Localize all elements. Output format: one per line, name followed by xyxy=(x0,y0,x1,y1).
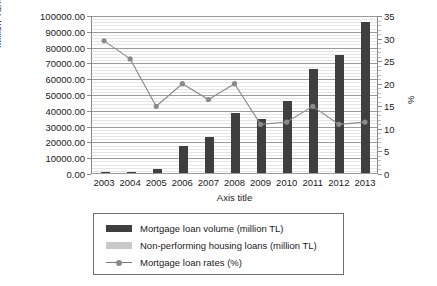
y2-tick-mark xyxy=(378,174,382,175)
legend-item-mortgage-loan-volume: Mortgage loan volume (million TL) xyxy=(106,220,343,237)
y-axis-left-title: Million Turkish Lira xyxy=(0,0,3,48)
y2-minor-tick-mark xyxy=(378,156,381,157)
y-tick-label: 30000.00 xyxy=(45,121,85,132)
y2-tick-mark xyxy=(378,61,382,62)
x-tick-label-2011: 2011 xyxy=(303,177,323,188)
y2-minor-tick-mark xyxy=(378,30,381,31)
y2-minor-tick-mark xyxy=(378,21,381,22)
y-tick-mark xyxy=(87,16,91,17)
mortgage-loan-rates-line-series xyxy=(91,16,378,174)
y2-tick-label: 35 xyxy=(384,11,395,22)
y2-tick-label: 20 xyxy=(384,78,395,89)
y2-minor-tick-mark xyxy=(378,165,381,166)
data-point-2003 xyxy=(101,38,106,43)
x-tick-label-2005: 2005 xyxy=(146,177,167,188)
y2-tick-label: 15 xyxy=(384,101,395,112)
data-point-2005 xyxy=(154,104,159,109)
y2-tick-mark xyxy=(378,84,382,85)
legend-label: Mortgage loan volume (million TL) xyxy=(140,223,283,234)
data-point-2013 xyxy=(362,119,367,124)
x-tick-label-2012: 2012 xyxy=(328,177,349,188)
y2-tick-label: 30 xyxy=(384,33,395,44)
y-tick-label: 60000.00 xyxy=(45,74,85,85)
y-tick-label: 80000.00 xyxy=(45,42,85,53)
y2-minor-tick-mark xyxy=(378,93,381,94)
y2-tick-mark xyxy=(378,151,382,152)
chart-container: Million Turkish Lira 0.0010000.0020000.0… xyxy=(0,0,437,286)
y2-tick-mark xyxy=(378,39,382,40)
data-point-2004 xyxy=(128,56,133,61)
y-tick-label: 0.00 xyxy=(67,169,86,180)
x-axis-ticks: 2003200420052006200720082009201020112012… xyxy=(91,177,378,191)
y2-minor-tick-mark xyxy=(378,43,381,44)
y2-minor-tick-mark xyxy=(378,138,381,139)
y2-tick-label: 25 xyxy=(384,56,395,67)
y2-minor-tick-mark xyxy=(378,115,381,116)
y2-minor-tick-mark xyxy=(378,97,381,98)
y2-tick-label: 5 xyxy=(384,146,389,157)
legend-label: Non-performing housing loans (million TL… xyxy=(140,240,317,251)
y2-minor-tick-mark xyxy=(378,75,381,76)
y2-minor-tick-mark xyxy=(378,48,381,49)
x-tick-label-2006: 2006 xyxy=(172,177,193,188)
y2-minor-tick-mark xyxy=(378,25,381,26)
y-tick-mark xyxy=(87,142,91,143)
y-tick-label: 100000.00 xyxy=(40,11,85,22)
y2-minor-tick-mark xyxy=(378,57,381,58)
y2-minor-tick-mark xyxy=(378,111,381,112)
x-tick-label-2009: 2009 xyxy=(250,177,271,188)
data-point-2010 xyxy=(284,119,289,124)
y-tick-mark xyxy=(87,111,91,112)
y-tick-mark xyxy=(87,32,91,33)
y2-tick-mark xyxy=(378,16,382,17)
y-tick-mark xyxy=(87,79,91,80)
y2-minor-tick-mark xyxy=(378,88,381,89)
y2-minor-tick-mark xyxy=(378,147,381,148)
y2-minor-tick-mark xyxy=(378,133,381,134)
data-point-2012 xyxy=(336,122,341,127)
data-point-2007 xyxy=(206,97,211,102)
y-tick-label: 40000.00 xyxy=(45,105,85,116)
data-point-2011 xyxy=(310,104,315,109)
light-bar-swatch-icon xyxy=(106,242,132,249)
y-tick-label: 70000.00 xyxy=(45,58,85,69)
x-tick-label-2004: 2004 xyxy=(120,177,141,188)
line-marker-swatch-icon xyxy=(106,258,132,267)
y2-minor-tick-mark xyxy=(378,52,381,53)
x-tick-label-2010: 2010 xyxy=(276,177,297,188)
y-tick-mark xyxy=(87,127,91,128)
y2-minor-tick-mark xyxy=(378,120,381,121)
legend-label: Mortgage loan rates (%) xyxy=(140,257,242,268)
legend-item-non-performing-housing-loans: Non-performing housing loans (million TL… xyxy=(106,237,343,254)
legend-item-mortgage-loan-rates: Mortgage loan rates (%) xyxy=(106,254,343,271)
y2-minor-tick-mark xyxy=(378,160,381,161)
y-tick-label: 90000.00 xyxy=(45,26,85,37)
y2-minor-tick-mark xyxy=(378,142,381,143)
x-axis-title: Axis title xyxy=(91,192,378,203)
data-point-2008 xyxy=(232,81,237,86)
y-axis-left-ticks: 0.0010000.0020000.0030000.0040000.005000… xyxy=(20,16,88,174)
dark-bar-swatch-icon xyxy=(106,225,132,232)
y-tick-mark xyxy=(87,158,91,159)
x-tick-label-2013: 2013 xyxy=(354,177,375,188)
chart-legend: Mortgage loan volume (million TL) Non-pe… xyxy=(93,213,344,275)
y2-minor-tick-mark xyxy=(378,66,381,67)
y2-minor-tick-mark xyxy=(378,70,381,71)
y2-tick-mark xyxy=(378,106,382,107)
y-tick-mark xyxy=(87,174,91,175)
y-tick-mark xyxy=(87,95,91,96)
x-tick-label-2008: 2008 xyxy=(224,177,245,188)
y2-tick-mark xyxy=(378,129,382,130)
y2-tick-label: 10 xyxy=(384,123,395,134)
legend-marker-dot xyxy=(116,260,122,266)
data-point-2009 xyxy=(258,122,263,127)
y-tick-label: 50000.00 xyxy=(45,90,85,101)
y2-minor-tick-mark xyxy=(378,124,381,125)
y-axis-right-ticks: 05101520253035 xyxy=(381,16,407,174)
data-point-2006 xyxy=(180,81,185,86)
y2-minor-tick-mark xyxy=(378,169,381,170)
y-tick-mark xyxy=(87,63,91,64)
x-tick-label-2007: 2007 xyxy=(198,177,219,188)
y-tick-label: 10000.00 xyxy=(45,153,85,164)
y2-minor-tick-mark xyxy=(378,34,381,35)
